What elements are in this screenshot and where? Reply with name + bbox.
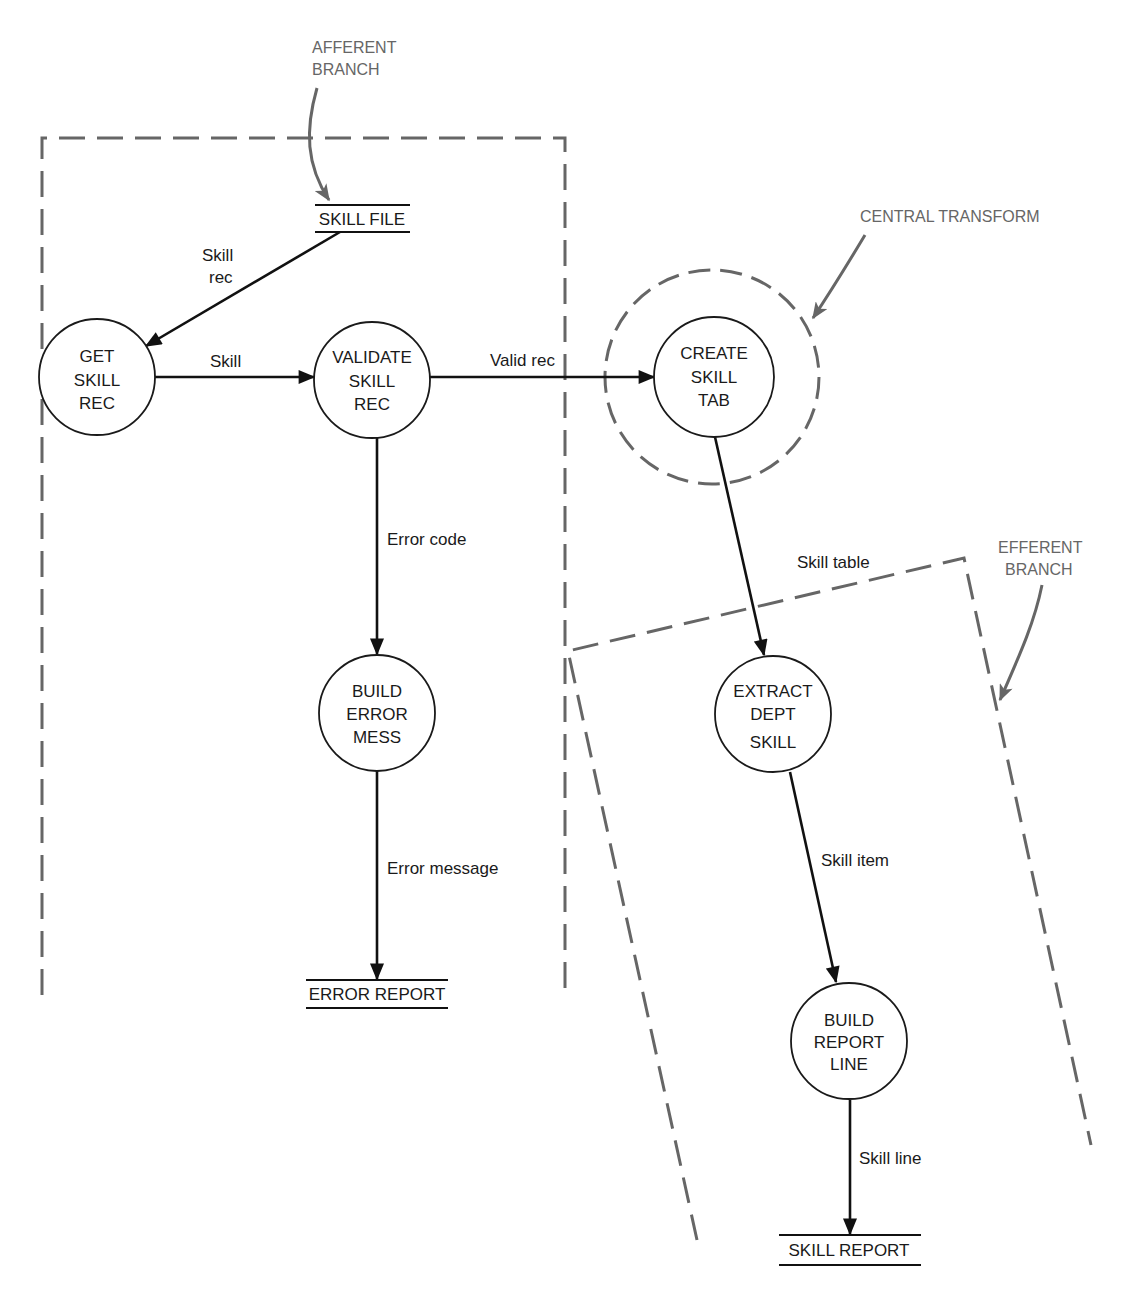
svg-text:LINE: LINE xyxy=(830,1055,868,1074)
afferent-label-line2: BRANCH xyxy=(312,61,380,78)
flow-label-valid-rec: Valid rec xyxy=(490,351,555,370)
svg-text:REC: REC xyxy=(354,395,390,414)
flow-label-skill-rec-2: rec xyxy=(209,268,233,287)
flow-label-error-message: Error message xyxy=(387,859,498,878)
flow-label-skill-table: Skill table xyxy=(797,553,870,572)
flow-error-message: Error message xyxy=(377,771,498,979)
flow-label-skill-rec-1: Skill xyxy=(202,246,233,265)
svg-text:SKILL REPORT: SKILL REPORT xyxy=(789,1241,910,1260)
flow-skill-line: Skill line xyxy=(850,1100,921,1234)
process-build-error-mess: BUILD ERROR MESS xyxy=(319,655,435,771)
svg-text:SKILL: SKILL xyxy=(691,368,737,387)
central-transform-annotation: CENTRAL TRANSFORM xyxy=(813,208,1040,318)
flow-skill-item: Skill item xyxy=(790,772,889,982)
svg-text:SKILL: SKILL xyxy=(349,372,395,391)
svg-text:BUILD: BUILD xyxy=(824,1011,874,1030)
svg-text:GET: GET xyxy=(80,347,115,366)
svg-text:SKILL FILE: SKILL FILE xyxy=(319,210,405,229)
efferent-label-line1: EFFERENT xyxy=(998,539,1083,556)
svg-text:ERROR: ERROR xyxy=(346,705,407,724)
data-flow-diagram: AFFERENT BRANCH CENTRAL TRANSFORM EFFERE… xyxy=(0,0,1133,1295)
svg-text:TAB: TAB xyxy=(698,391,730,410)
flow-label-error-code: Error code xyxy=(387,530,466,549)
svg-text:BUILD: BUILD xyxy=(352,682,402,701)
process-build-report-line: BUILD REPORT LINE xyxy=(791,983,907,1099)
svg-text:CREATE: CREATE xyxy=(680,344,748,363)
svg-text:REPORT: REPORT xyxy=(814,1033,885,1052)
efferent-pointer-arrow-icon xyxy=(1000,585,1042,700)
flow-label-skill: Skill xyxy=(210,352,241,371)
svg-text:SKILL: SKILL xyxy=(750,733,796,752)
afferent-label-line1: AFFERENT xyxy=(312,39,397,56)
svg-text:ERROR REPORT: ERROR REPORT xyxy=(309,985,446,1004)
svg-text:EXTRACT: EXTRACT xyxy=(733,682,812,701)
svg-text:MESS: MESS xyxy=(353,728,401,747)
central-transform-label: CENTRAL TRANSFORM xyxy=(860,208,1040,225)
flow-label-skill-item: Skill item xyxy=(821,851,889,870)
flow-skill-rec: Skill rec xyxy=(146,232,340,346)
efferent-label-line2: BRANCH xyxy=(1005,561,1073,578)
data-store-skill-report: SKILL REPORT xyxy=(779,1235,921,1265)
svg-text:SKILL: SKILL xyxy=(74,371,120,390)
svg-text:DEPT: DEPT xyxy=(750,705,795,724)
data-store-skill-file: SKILL FILE xyxy=(315,205,410,232)
data-store-error-report: ERROR REPORT xyxy=(306,980,448,1008)
process-extract-dept-skill: EXTRACT DEPT SKILL xyxy=(715,656,831,772)
svg-text:REC: REC xyxy=(79,394,115,413)
flow-valid-rec: Valid rec xyxy=(430,351,654,377)
process-get-skill-rec: GET SKILL REC xyxy=(39,319,155,435)
afferent-branch-annotation: AFFERENT BRANCH xyxy=(309,39,396,200)
process-validate-skill-rec: VALIDATE SKILL REC xyxy=(314,322,430,438)
central-pointer-arrow-icon xyxy=(813,235,865,318)
flow-skill: Skill xyxy=(155,352,314,377)
afferent-pointer-arrow-icon xyxy=(309,88,329,200)
flow-error-code: Error code xyxy=(377,438,466,654)
efferent-branch-boundary xyxy=(568,558,1091,1240)
efferent-branch-annotation: EFFERENT BRANCH xyxy=(998,539,1083,700)
process-create-skill-tab: CREATE SKILL TAB xyxy=(654,317,774,437)
svg-text:VALIDATE: VALIDATE xyxy=(332,348,412,367)
flow-label-skill-line: Skill line xyxy=(859,1149,921,1168)
flow-skill-table: Skill table xyxy=(715,437,870,655)
